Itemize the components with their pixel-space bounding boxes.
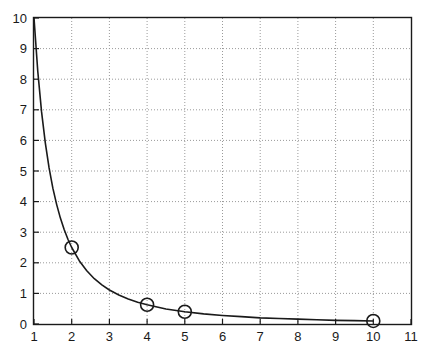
data-point-marker (367, 314, 380, 327)
x-tick-label: 8 (294, 329, 301, 344)
y-tick-label: 0 (20, 317, 27, 332)
x-tick-label: 3 (106, 329, 113, 344)
x-tick-label: 9 (332, 329, 339, 344)
x-tick-label: 2 (68, 329, 75, 344)
x-tick-label: 5 (181, 329, 188, 344)
x-tick-label: 11 (404, 329, 418, 344)
y-tick-label: 3 (20, 225, 27, 240)
x-tick-label: 10 (366, 329, 380, 344)
y-tick-label: 8 (20, 72, 27, 87)
y-tick-label: 4 (20, 194, 27, 209)
x-tick-label: 6 (219, 329, 226, 344)
x-tick-label: 1 (30, 329, 37, 344)
y-tick-label: 9 (20, 41, 27, 56)
x-tick-label: 4 (143, 329, 150, 344)
y-tick-label: 5 (20, 164, 27, 179)
decay-curve-chart: 012345678910 1234567891011 (0, 0, 430, 361)
y-tick-label: 7 (20, 102, 27, 117)
y-tick-label: 2 (20, 255, 27, 270)
y-tick-label: 10 (13, 11, 27, 26)
chart-background (0, 0, 430, 361)
data-point-marker (65, 241, 78, 254)
chart-figure: 012345678910 1234567891011 (0, 0, 430, 361)
y-tick-label: 1 (20, 286, 27, 301)
data-point-marker (178, 305, 191, 318)
data-point-marker (141, 298, 154, 311)
x-tick-label: 7 (257, 329, 264, 344)
y-tick-label: 6 (20, 133, 27, 148)
